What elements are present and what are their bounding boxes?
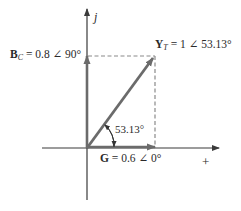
subscript-C: C xyxy=(18,53,23,62)
angle-label: 53.13° xyxy=(115,124,144,135)
value-BC: = 0.8 ∠ 90° xyxy=(26,48,81,60)
real-axis-label: + xyxy=(202,155,209,168)
symbol-G: G xyxy=(100,152,109,164)
value-YT: = 1 ∠ 53.13° xyxy=(171,38,232,50)
value-G: = 0.6 ∠ 0° xyxy=(112,152,161,164)
symbol-B: B xyxy=(10,48,18,60)
imaginary-axis-label: j xyxy=(94,11,97,23)
subscript-T: T xyxy=(163,43,167,52)
label-YT: YT = 1 ∠ 53.13° xyxy=(155,39,232,52)
label-G: G = 0.6 ∠ 0° xyxy=(100,153,161,165)
phasor-diagram xyxy=(0,0,241,211)
angle-arc-start xyxy=(106,126,114,146)
label-BC: BC = 0.8 ∠ 90° xyxy=(10,49,81,62)
